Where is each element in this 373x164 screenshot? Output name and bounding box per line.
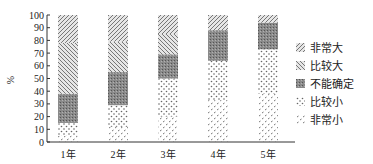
- legend-item: 非常小: [296, 110, 354, 128]
- bar-segment: [158, 54, 178, 78]
- bars: [58, 15, 278, 142]
- bar-segment: [208, 100, 228, 142]
- bar-segment: [158, 34, 178, 54]
- legend-label: 比较大: [310, 57, 343, 73]
- bar-segment: [258, 15, 278, 23]
- bar-segment: [158, 79, 178, 117]
- x-tick-label: 4年: [211, 148, 226, 160]
- bar-segment: [58, 123, 78, 136]
- x-tick-label: 1年: [61, 148, 76, 160]
- y-tick-label: 100: [29, 10, 44, 21]
- legend-swatch-icon: [296, 61, 305, 70]
- y-tick-label: 0: [39, 137, 44, 148]
- legend-item: 不能确定: [296, 74, 354, 92]
- y-tick-label: 90: [34, 22, 44, 33]
- bar-segment: [258, 94, 278, 142]
- legend: 非常大比较大不能确定比较小非常小: [296, 38, 354, 128]
- bar-segment: [58, 15, 78, 43]
- legend-label: 非常小: [310, 111, 343, 127]
- legend-item: 比较大: [296, 56, 354, 74]
- bar-segment: [108, 127, 128, 142]
- y-tick-label: 20: [34, 111, 44, 122]
- bar-segment: [58, 94, 78, 123]
- bar-3: [158, 15, 178, 142]
- legend-swatch-icon: [296, 97, 305, 106]
- legend-swatch-icon: [296, 79, 305, 88]
- y-tick-label: 80: [34, 35, 44, 46]
- y-axis-label: %: [5, 76, 16, 84]
- bar-2: [108, 15, 128, 142]
- bar-segment: [58, 136, 78, 142]
- y-tick-label: 40: [34, 86, 44, 97]
- bar-segment: [58, 43, 78, 94]
- legend-item: 比较小: [296, 92, 354, 110]
- bar-segment: [158, 117, 178, 142]
- y-tick-label: 60: [34, 60, 44, 71]
- bar-segment: [208, 61, 228, 100]
- legend-swatch-icon: [296, 43, 305, 52]
- x-tick-label: 5年: [261, 148, 276, 160]
- y-axis: 0102030405060708090100: [29, 10, 50, 148]
- bar-segment: [208, 15, 228, 30]
- legend-swatch-icon: [296, 115, 305, 124]
- bar-segment: [258, 49, 278, 93]
- legend-item: 非常大: [296, 38, 354, 56]
- bar-segment: [258, 23, 278, 50]
- bar-segment: [158, 15, 178, 34]
- x-tick-label: 3年: [161, 148, 176, 160]
- bar-segment: [108, 105, 128, 127]
- bar-segment: [208, 30, 228, 60]
- y-tick-label: 30: [34, 98, 44, 109]
- y-tick-label: 10: [34, 124, 44, 135]
- y-tick-label: 70: [34, 48, 44, 59]
- bar-segment: [108, 72, 128, 105]
- bar-1: [58, 15, 78, 142]
- legend-label: 不能确定: [310, 75, 354, 91]
- x-tick-label: 2年: [111, 148, 126, 160]
- bar-segment: [108, 15, 128, 42]
- y-tick-label: 50: [34, 73, 44, 84]
- legend-label: 非常大: [310, 39, 343, 55]
- x-axis: 1年2年3年4年5年: [47, 142, 295, 160]
- bar-segment: [108, 42, 128, 72]
- bar-5: [258, 15, 278, 142]
- legend-label: 比较小: [310, 93, 343, 109]
- bar-4: [208, 15, 228, 142]
